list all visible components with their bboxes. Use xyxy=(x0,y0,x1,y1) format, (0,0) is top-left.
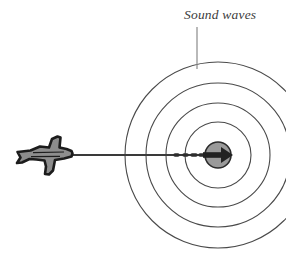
diagram-canvas xyxy=(0,0,286,256)
sound-waves-label: Sound waves xyxy=(184,8,256,22)
aircraft-wing-crease xyxy=(33,152,64,153)
aircraft-fuselage xyxy=(17,137,73,175)
jet-aircraft xyxy=(17,137,73,175)
sound-waves-diagram: Sound waves xyxy=(0,0,286,256)
